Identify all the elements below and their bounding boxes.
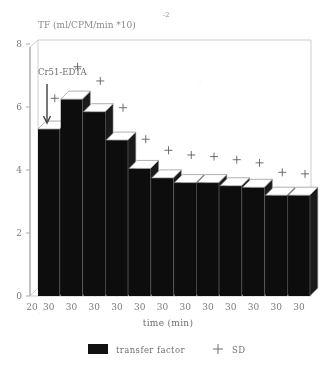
chart-legend: transfer factor SD xyxy=(88,344,245,355)
x-tick-labels: 30303030303030303030303020 xyxy=(26,302,305,312)
bar-front xyxy=(197,183,219,296)
y-tick-label: 0 xyxy=(16,291,22,301)
x-tick-label: 30 xyxy=(225,302,237,312)
bar-front xyxy=(243,187,265,296)
sd-plus-marker xyxy=(278,168,286,176)
bar-front xyxy=(106,140,128,296)
bar-front xyxy=(38,129,60,296)
chart-canvas: 0 2 4 6 8 TF (ml/CPM/min *10) -2 Cr51-ED… xyxy=(0,0,323,373)
y-tick-label: 2 xyxy=(16,228,22,238)
bars-layer xyxy=(38,91,318,296)
sd-plus-marker xyxy=(210,153,218,161)
x-tick-label: 30 xyxy=(111,302,123,312)
bar-front xyxy=(84,112,106,296)
y-tick-labels: 0 2 4 6 8 xyxy=(16,39,22,301)
sd-plus-marker xyxy=(96,77,104,85)
x-axis-label: time (min) xyxy=(143,318,193,328)
x-tick-label: 30 xyxy=(180,302,192,312)
annotation-label: Cr51-EDTA xyxy=(38,67,87,77)
sd-plus-marker xyxy=(256,159,264,167)
x-tick-label: 30 xyxy=(248,302,260,312)
x-tick-label: 30 xyxy=(134,302,146,312)
chart-title: TF (ml/CPM/min *10) xyxy=(38,20,136,30)
y-axis-title: TF (ml/CPM/min *10) -2 xyxy=(38,11,169,30)
x-tick-label: 30 xyxy=(66,302,78,312)
x-tick-label: 30 xyxy=(157,302,169,312)
sd-plus-marker xyxy=(301,170,309,178)
x-tick-label: 30 xyxy=(43,302,55,312)
bar-front xyxy=(266,195,288,296)
x-tick-label: 30 xyxy=(271,302,283,312)
chart-figure: 0 2 4 6 8 TF (ml/CPM/min *10) -2 Cr51-ED… xyxy=(0,0,323,373)
legend-plus-icon xyxy=(213,344,223,354)
x-tick-label: 30 xyxy=(202,302,214,312)
injection-arrow-icon xyxy=(44,84,51,123)
bar-column xyxy=(288,187,318,296)
x-tick-label: 30 xyxy=(89,302,101,312)
bar-front xyxy=(152,178,174,296)
y-axis-ticks xyxy=(26,44,30,296)
chart-title-superscript: -2 xyxy=(163,11,169,19)
legend-swatch-transfer-factor xyxy=(88,344,108,354)
sd-plus-marker xyxy=(233,156,241,164)
x-tick-label: 30 xyxy=(293,302,305,312)
x-tick-label-origin: 20 xyxy=(26,302,38,312)
y-tick-label: 4 xyxy=(16,165,22,175)
y-tick-label: 6 xyxy=(16,102,22,112)
bar-front xyxy=(61,99,83,296)
bar-front xyxy=(220,186,242,296)
legend-label-sd: SD xyxy=(232,345,245,355)
legend-label-transfer-factor: transfer factor xyxy=(116,345,185,355)
bar-front xyxy=(175,183,197,296)
bar-front xyxy=(129,168,151,296)
bar-front xyxy=(288,195,310,296)
sd-plus-marker xyxy=(51,94,59,102)
bar-side xyxy=(310,187,318,296)
y-tick-label: 8 xyxy=(16,39,22,49)
sd-plus-marker xyxy=(187,151,195,159)
sd-plus-marker xyxy=(165,146,173,154)
sd-plus-marker xyxy=(119,104,127,112)
sd-plus-marker xyxy=(142,135,150,143)
